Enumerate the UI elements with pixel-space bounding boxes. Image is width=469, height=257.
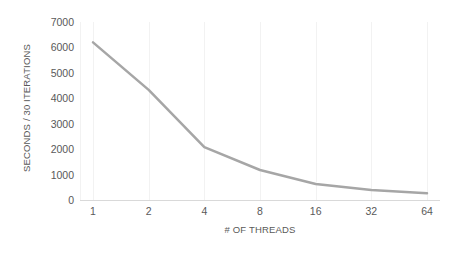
x-axis-tick-label: 64 — [407, 204, 447, 218]
y-axis-tick-labels: 70006000500040003000200010000 — [26, 14, 74, 208]
x-axis-line — [80, 200, 440, 201]
x-axis-tick-label: 8 — [240, 204, 280, 218]
data-series-line — [80, 22, 440, 200]
x-axis-tick-label: 16 — [296, 204, 336, 218]
plot-area — [80, 22, 440, 200]
x-axis-title: # OF THREADS — [80, 224, 440, 235]
x-axis-tick-label: 2 — [129, 204, 169, 218]
line-chart-figure: SECONDS / 30 ITERATIONS 7000600050004000… — [0, 0, 469, 257]
y-axis-tick-label: 3000 — [26, 118, 74, 130]
x-axis-tick-label: 32 — [351, 204, 391, 218]
y-axis-tick-label: 6000 — [26, 41, 74, 53]
y-axis-tick-label: 0 — [26, 194, 74, 206]
y-axis-tick-label: 5000 — [26, 67, 74, 79]
y-axis-tick-label: 7000 — [26, 16, 74, 28]
y-axis-tick-label: 1000 — [26, 169, 74, 181]
x-axis-tick-label: 1 — [73, 204, 113, 218]
x-axis-tick-labels: 1248163264 — [80, 204, 440, 220]
x-axis-tick-label: 4 — [184, 204, 224, 218]
y-axis-tick-label: 4000 — [26, 92, 74, 104]
y-axis-tick-label: 2000 — [26, 143, 74, 155]
series-polyline — [93, 42, 427, 193]
